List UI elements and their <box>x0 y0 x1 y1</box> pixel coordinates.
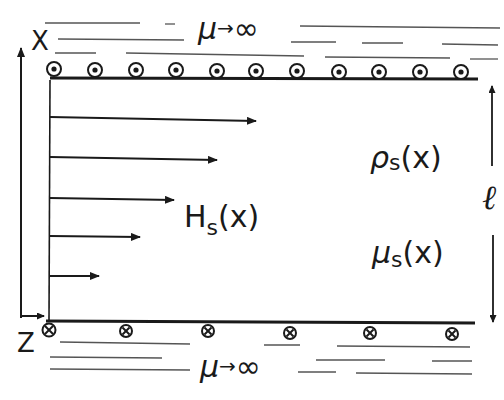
dot-circle-icon <box>332 65 346 79</box>
cross-circle-icon <box>43 324 56 337</box>
rho-arg: (x) <box>401 140 442 175</box>
permeability-label: μs(x) <box>372 238 444 268</box>
z-axis-label: Z <box>17 330 35 356</box>
cross-circle-icon <box>120 325 132 337</box>
rho-subscript: s <box>389 150 400 175</box>
dot-circle-icon <box>372 65 386 79</box>
infinity-symbol: ∞ <box>234 11 259 46</box>
bottom-medium-hatching <box>50 342 472 374</box>
dot-circle-icon <box>290 64 304 78</box>
left-boundary <box>49 80 50 320</box>
field-label: Hs(x) <box>184 202 259 232</box>
field-arrow <box>50 198 174 200</box>
bottom-plate <box>46 321 475 323</box>
mu-symbol: μ <box>200 349 219 384</box>
cross-circle-icon <box>202 325 214 337</box>
dot-circle-icon <box>210 64 224 78</box>
infinity-symbol: ∞ <box>236 349 261 384</box>
rho-symbol: ρ <box>370 140 389 175</box>
mu-s-subscript: s <box>391 247 402 272</box>
field-arrow <box>50 117 256 121</box>
mu-symbol: μ <box>198 11 217 46</box>
arrow-symbol: → <box>219 354 236 378</box>
mu-s-symbol: μ <box>372 235 391 270</box>
top-medium-label: μ→∞ <box>198 14 259 44</box>
field-subscript: s <box>207 215 218 240</box>
arrow-symbol: → <box>217 16 234 40</box>
cross-circle-icon <box>284 327 296 339</box>
dot-circle-icon <box>249 64 263 78</box>
top-medium-hatching <box>45 23 500 59</box>
cross-circle-icon <box>446 328 458 340</box>
bottom-medium-label: μ→∞ <box>200 352 261 382</box>
cross-circle-icon <box>364 327 376 339</box>
dot-circle-icon <box>169 63 183 77</box>
field-arg: (x) <box>218 199 259 234</box>
top-plate <box>50 78 478 79</box>
field-arrows <box>50 117 256 276</box>
slab-boundaries <box>46 78 478 323</box>
field-arrow <box>50 157 217 160</box>
top-surface-currents <box>47 62 468 79</box>
dot-circle-icon <box>47 62 61 76</box>
coordinate-axes <box>21 48 44 318</box>
x-axis-label: X <box>31 28 49 54</box>
field-symbol: H <box>184 199 207 234</box>
charge-density-label: ρs(x) <box>370 143 442 173</box>
bottom-surface-currents <box>43 324 459 341</box>
dot-circle-icon <box>88 63 102 77</box>
dot-circle-icon <box>129 63 143 77</box>
dot-circle-icon <box>413 65 427 79</box>
dot-circle-icon <box>454 65 468 79</box>
field-arrow <box>50 236 140 237</box>
mu-s-arg: (x) <box>403 235 444 270</box>
thickness-label: ℓ <box>482 180 496 214</box>
